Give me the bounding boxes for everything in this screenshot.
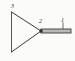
triangle-lower-edge — [12, 31, 42, 52]
mechanism-diagram: 3 2 1 — [0, 0, 75, 61]
diagram-canvas — [0, 0, 75, 61]
pivot-joint-dot — [39, 29, 42, 32]
horizontal-beam — [41, 29, 71, 33]
label-joint-2: 2 — [39, 18, 42, 24]
label-beam-1: 1 — [61, 17, 64, 23]
triangle-upper-edge — [12, 12, 42, 31]
label-link-3: 3 — [11, 3, 14, 9]
